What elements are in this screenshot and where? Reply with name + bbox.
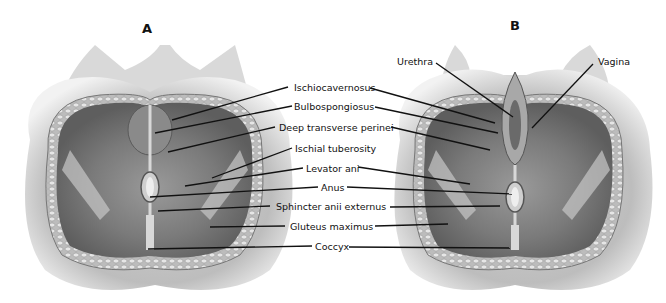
label-urethra: Urethra — [397, 56, 433, 67]
label-ischiocavernosus: Ischiocavernosus — [294, 82, 375, 93]
label-ischial-tuberosity: Ischial tuberosity — [295, 143, 376, 154]
label-sphincter-anii-externus: Sphincter anii externus — [276, 201, 386, 212]
panel-b-illustration — [394, 45, 652, 290]
label-vagina: Vagina — [598, 56, 630, 67]
label-bulbospongiosus: Bulbospongiosus — [294, 101, 374, 112]
label-levator-ani: Levator ani — [306, 163, 359, 174]
panel-a-letter: A — [142, 21, 152, 36]
panel-b-letter: B — [510, 18, 520, 33]
panel-a-illustration — [25, 45, 293, 290]
label-coccyx: Coccyx — [315, 241, 349, 252]
label-gluteus-maximus: Gluteus maximus — [290, 221, 373, 232]
label-deep-transverse-perinei: Deep transverse perinei — [279, 122, 394, 133]
label-anus: Anus — [321, 182, 345, 193]
